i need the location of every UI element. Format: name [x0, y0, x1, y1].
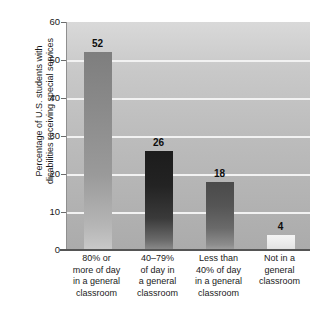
y-axis-tick-labels: 0102030405060 — [38, 0, 60, 318]
y-axis-tick-label: 10 — [38, 208, 60, 216]
x-axis-category-labels: 80% ormore of dayin a generalclassroom40… — [66, 253, 310, 318]
bar[interactable] — [84, 52, 112, 250]
plot-area: 5226184 — [66, 22, 310, 250]
x-axis-category-label: 40–79%of day ina generalclassroom — [127, 253, 188, 299]
x-axis-category-label-line: classroom — [249, 276, 310, 288]
bar-value-label: 26 — [153, 137, 164, 148]
x-axis-category-label-line: of day in — [127, 265, 188, 277]
x-axis-category-label-line: general — [249, 265, 310, 277]
x-axis-category-label: 80% ormore of dayin a generalclassroom — [66, 253, 127, 299]
bar-value-label: 52 — [92, 38, 103, 49]
x-axis-line — [60, 249, 310, 251]
x-axis-category-label-line: 40–79% — [127, 253, 188, 265]
y-axis-tick-label: 60 — [38, 18, 60, 26]
y-axis-tick-label: 40 — [38, 94, 60, 102]
y-axis-tick-label: 20 — [38, 170, 60, 178]
bar-value-label: 4 — [278, 221, 284, 232]
x-axis-category-label: Less than40% of dayin a generalclassroom — [188, 253, 249, 299]
x-axis-category-label-line: 40% of day — [188, 265, 249, 277]
bar-slot: 18 — [189, 22, 250, 250]
bar[interactable] — [267, 235, 295, 250]
bar[interactable] — [206, 182, 234, 250]
y-axis-tick-label: 50 — [38, 56, 60, 64]
bar-chart: Percentage of U.S. students with disabil… — [0, 0, 326, 318]
x-axis-category-label: Not in ageneralclassroom — [249, 253, 310, 288]
x-axis-category-label-line: in a general — [66, 276, 127, 288]
y-axis-tick-label: 0 — [38, 246, 60, 254]
x-axis-category-label-line: classroom — [66, 288, 127, 300]
x-axis-category-label-line: Less than — [188, 253, 249, 265]
x-axis-category-label-line: classroom — [188, 288, 249, 300]
bar-value-label: 18 — [214, 168, 225, 179]
bar-slot: 26 — [128, 22, 189, 250]
x-axis-category-label-line: Not in a — [249, 253, 310, 265]
bar-slot: 4 — [250, 22, 311, 250]
x-axis-category-label-line: classroom — [127, 288, 188, 300]
x-axis-category-label-line: a general — [127, 276, 188, 288]
bar[interactable] — [145, 151, 173, 250]
x-axis-category-label-line: in a general — [188, 276, 249, 288]
x-axis-category-label-line: 80% or — [66, 253, 127, 265]
y-axis-tick-label: 30 — [38, 132, 60, 140]
x-axis-category-label-line: more of day — [66, 265, 127, 277]
bar-slot: 52 — [67, 22, 128, 250]
